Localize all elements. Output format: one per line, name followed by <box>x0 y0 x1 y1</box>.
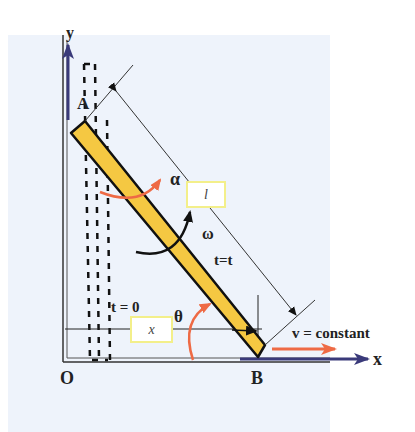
theta-label: θ <box>174 308 183 325</box>
time-current-label: t=t <box>214 253 233 268</box>
rod-direction-arrow <box>232 330 256 331</box>
x-axis-label: x <box>373 350 382 368</box>
y-axis-label: y <box>66 25 74 41</box>
velocity-label: v = constant <box>292 326 370 341</box>
wall <box>63 35 67 362</box>
x-distance-label: x <box>148 322 154 338</box>
time-initial-label: t = 0 <box>111 300 140 315</box>
alpha-label: α <box>170 170 180 188</box>
point-b-label: B <box>251 369 263 387</box>
point-a-label: A <box>77 95 89 112</box>
length-label-box: l <box>186 181 226 208</box>
x-label-box: x <box>130 316 173 343</box>
length-label: l <box>204 187 208 203</box>
origin-label: O <box>60 369 74 387</box>
omega-label: ω <box>202 226 214 242</box>
theta-arc <box>189 304 210 360</box>
